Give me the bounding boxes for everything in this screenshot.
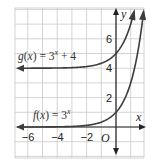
curve-f-arrow-up-icon (139, 9, 146, 20)
x-axis-label: x (135, 110, 142, 124)
exponential-graph: x y O −6−4−2246 g(x) = 3x + 4f(x) = 3x (0, 0, 156, 166)
y-tick-label: 4 (106, 62, 112, 74)
y-axis-arrow-down-icon (113, 148, 119, 155)
curve-f-arrow-left-icon (16, 123, 24, 130)
x-tick-label: −2 (81, 131, 94, 143)
labels: x y O (101, 7, 142, 145)
curve-g-arrow-left-icon (16, 65, 24, 72)
function-label-g: g(x) = 3x + 4 (18, 48, 76, 63)
y-tick-label: 6 (106, 33, 112, 45)
curve-g-arrow-up-icon (129, 9, 136, 21)
x-tick-label: −6 (22, 131, 35, 143)
function-label-f: f(x) = 3x (33, 107, 71, 122)
x-axis-arrow-right-icon (139, 124, 146, 130)
y-axis-label: y (120, 7, 127, 21)
origin-label: O (101, 131, 110, 145)
y-tick-label: 2 (106, 92, 112, 104)
x-tick-label: −4 (51, 131, 64, 143)
function-labels: g(x) = 3x + 4f(x) = 3x (18, 48, 76, 122)
